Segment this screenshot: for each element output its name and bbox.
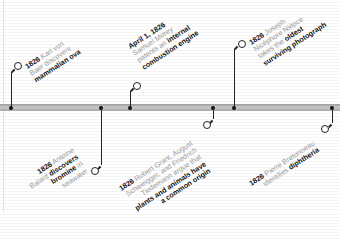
- marker-ring-icon: [238, 40, 246, 48]
- event-label: 1826 Joseph Nicéphore Niépce takes the o…: [248, 0, 328, 68]
- marker-ring-icon: [133, 82, 141, 90]
- marker-ring-icon: [91, 167, 99, 175]
- connector-line: [213, 108, 215, 119]
- event-label: 1826 Pierre Bretonneau identifies diphth…: [248, 139, 321, 194]
- connector-hook: [234, 46, 238, 50]
- marker-ring-icon: [14, 62, 22, 70]
- marker-ring-icon: [321, 125, 329, 133]
- connector-line: [11, 72, 13, 108]
- connector-line: [332, 108, 334, 123]
- connector-line: [101, 108, 103, 165]
- connector-line: [130, 91, 132, 108]
- connector-hook: [11, 69, 15, 73]
- connector-line: [234, 49, 236, 108]
- event-label: 1826 Antoine Balard discovers bromine in…: [24, 146, 89, 204]
- event-label: 1826 Robert Grant, August Schweigger, an…: [118, 139, 212, 212]
- event-label: 1826 Karl von Baer discovers mammalian o…: [24, 35, 83, 85]
- event-label: April 1, 1826 Samuel Morey patents an in…: [127, 8, 200, 71]
- timeline-bar: [0, 104, 340, 111]
- marker-ring-icon: [203, 121, 211, 129]
